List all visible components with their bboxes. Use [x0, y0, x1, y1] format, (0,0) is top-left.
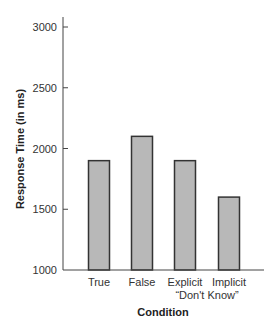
bar: [89, 161, 110, 270]
bar: [132, 136, 153, 270]
x-axis-label: Condition: [137, 306, 189, 318]
x-tick-label: Explicit: [168, 276, 203, 288]
y-tick-label: 1500: [33, 203, 57, 215]
y-tick-label: 2000: [33, 143, 57, 155]
x-axis: TrueFalseExplicitImplicit: [63, 270, 264, 288]
y-tick-label: 1000: [33, 264, 57, 276]
bar-chart: 10001500200025003000 TrueFalseExplicitIm…: [0, 0, 280, 329]
x-tick-label: False: [129, 276, 156, 288]
bars: [89, 136, 240, 270]
dont-know-sublabel: “Don't Know”: [175, 289, 239, 301]
bar: [175, 161, 196, 270]
y-axis: 10001500200025003000: [33, 17, 68, 276]
y-axis-label: Response Time (in ms): [14, 89, 26, 210]
bar: [219, 197, 240, 270]
y-tick-label: 2500: [33, 82, 57, 94]
x-tick-label: True: [88, 276, 110, 288]
x-tick-label: Implicit: [212, 276, 246, 288]
y-tick-label: 3000: [33, 21, 57, 33]
